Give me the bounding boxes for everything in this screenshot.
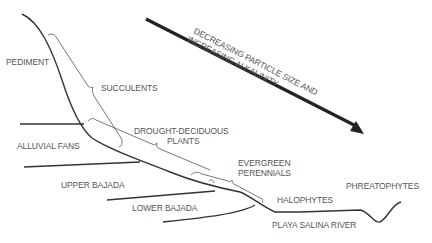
label-drought-deciduous-1: DROUGHT-DECIDUOUS <box>134 126 229 136</box>
lower-bajada-boundary <box>107 191 215 200</box>
desert-landform-diagram: DECREASING PARTICLE SIZE AND INCREASING … <box>0 0 432 243</box>
arrow-label-line1: DECREASING PARTICLE SIZE AND <box>192 26 319 97</box>
label-playa-salina-river: PLAYA SALINA RIVER <box>272 220 356 230</box>
label-halophytes: HALOPHYTES <box>277 195 334 205</box>
label-phreatophytes: PHREATOPHYTES <box>346 181 419 191</box>
label-evergreen-2: PERENNIALS <box>238 168 291 178</box>
label-lower-bajada: LOWER BAJADA <box>132 203 198 213</box>
label-alluvial-fans: ALLUVIAL FANS <box>17 141 80 151</box>
label-drought-deciduous-2: PLANTS <box>167 136 200 146</box>
label-upper-bajada: UPPER BAJADA <box>61 180 125 190</box>
label-succulents: SUCCULENTS <box>101 83 158 93</box>
diagram-canvas: DECREASING PARTICLE SIZE AND INCREASING … <box>0 0 432 243</box>
label-evergreen-1: EVERGREEN <box>238 158 290 168</box>
small-bracket <box>209 180 214 183</box>
upper-bajada-boundary <box>24 162 140 167</box>
label-pediment: PEDIMENT <box>6 57 49 67</box>
